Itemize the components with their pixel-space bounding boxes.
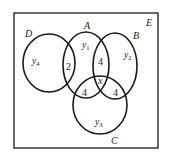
set-a-label: A — [83, 20, 91, 31]
set-d-label: D — [24, 28, 33, 39]
region-b-only-sub: 2 — [128, 54, 131, 61]
region-a-and-d-value: 2 — [66, 61, 71, 72]
region-c-only-label: y3 — [94, 117, 102, 128]
region-a-and-b-value: 4 — [98, 56, 103, 67]
region-a-b-c-value: x — [97, 75, 103, 86]
set-c-label: C — [111, 135, 118, 146]
region-d-only-label: y4 — [31, 56, 40, 67]
universe-label: E — [145, 17, 152, 28]
set-b-label: B — [133, 30, 139, 41]
region-b-only-label: y2 — [123, 50, 131, 61]
venn-diagram: E D A B C y4 y1 y2 y3 2 4 x 4 4 — [0, 0, 170, 161]
region-a-and-c-value: 4 — [82, 87, 87, 98]
region-d-only-sub: 4 — [36, 60, 40, 67]
region-b-and-c-value: 4 — [113, 87, 118, 98]
region-c-only-sub: 3 — [99, 121, 102, 128]
region-a-only-label: y1 — [81, 40, 89, 51]
region-a-only-sub: 1 — [86, 44, 89, 51]
